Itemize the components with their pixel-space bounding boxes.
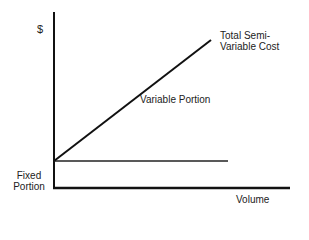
- fixed-portion-label-line1: Fixed: [10, 170, 48, 181]
- fixed-portion-label-line2: Portion: [10, 181, 48, 192]
- total-cost-label-line1: Total Semi-: [220, 30, 279, 41]
- variable-portion-label: Variable Portion: [140, 94, 210, 105]
- x-axis-label: Volume: [236, 194, 269, 205]
- y-axis-label: $: [37, 24, 43, 35]
- fixed-portion-label: Fixed Portion: [10, 170, 48, 192]
- total-cost-label: Total Semi- Variable Cost: [220, 30, 279, 52]
- total-cost-label-line2: Variable Cost: [220, 41, 279, 52]
